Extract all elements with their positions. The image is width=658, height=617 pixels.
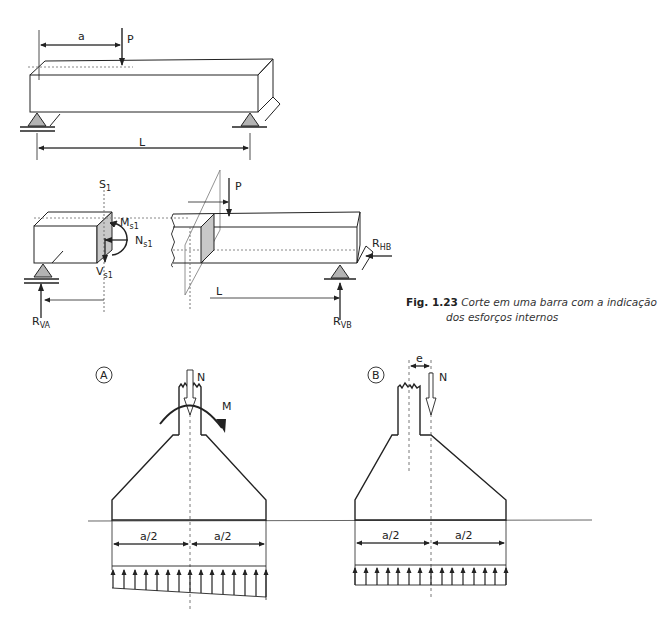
- figure-number: Fig. 1.23: [406, 296, 458, 308]
- footing-a: [96, 367, 266, 610]
- pressure-arrows-b: [355, 568, 506, 585]
- figure-caption: Fig. 1.23 Corte em uma barra com a indic…: [406, 295, 657, 325]
- label-half-left-b: a/2: [382, 529, 399, 542]
- caption-line-1: Corte em uma barra com a indicação: [461, 296, 657, 308]
- support-cut-right: [324, 265, 356, 279]
- tag-a: A: [100, 369, 108, 382]
- label-p-cut: P: [235, 180, 242, 193]
- caption-line-2: dos esforços internos: [406, 310, 657, 325]
- label-n-a: N: [197, 371, 205, 384]
- label-l-cut: L: [216, 285, 223, 298]
- label-n-b: N: [439, 371, 447, 384]
- label-half-right-b: a/2: [455, 529, 472, 542]
- label-ns1: Ns1: [135, 234, 153, 249]
- beam-top: [28, 28, 280, 160]
- beam-cut-left: [34, 190, 190, 318]
- beam-cut-right: [172, 170, 393, 320]
- tag-b: B: [372, 369, 380, 382]
- label-half-right-a: a/2: [214, 530, 231, 543]
- support-left-pinned: [20, 113, 55, 131]
- label-l: L: [139, 136, 146, 149]
- label-a: a: [78, 30, 85, 43]
- support-cut-left: [24, 264, 59, 283]
- label-p: P: [127, 33, 134, 46]
- label-rhb: RHB: [372, 237, 391, 252]
- label-m-a: M: [222, 400, 232, 413]
- footing-b: [355, 360, 506, 600]
- support-right-roller: [232, 113, 267, 127]
- label-half-left-a: a/2: [140, 530, 157, 543]
- label-rvb: RVB: [333, 315, 352, 330]
- label-s1: S1: [99, 178, 111, 193]
- label-e: e: [416, 352, 423, 365]
